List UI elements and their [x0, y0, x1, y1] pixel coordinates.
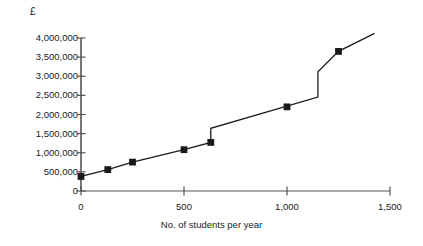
x-tick-label: 1,000: [275, 202, 299, 212]
data-series-line: [81, 33, 375, 176]
axis-lines: [81, 38, 390, 191]
x-axis-title: No. of students per year: [0, 219, 423, 230]
x-tick-label: 500: [176, 202, 192, 212]
data-point-markers: [78, 48, 342, 180]
x-tick-label: 1,500: [378, 202, 402, 212]
axis-ticks: [77, 38, 391, 196]
plot-area: [0, 0, 423, 246]
chart-container: £ 0500,0001,000,0001,500,0002,000,0002,5…: [0, 0, 423, 246]
x-tick-label: 0: [78, 202, 83, 212]
